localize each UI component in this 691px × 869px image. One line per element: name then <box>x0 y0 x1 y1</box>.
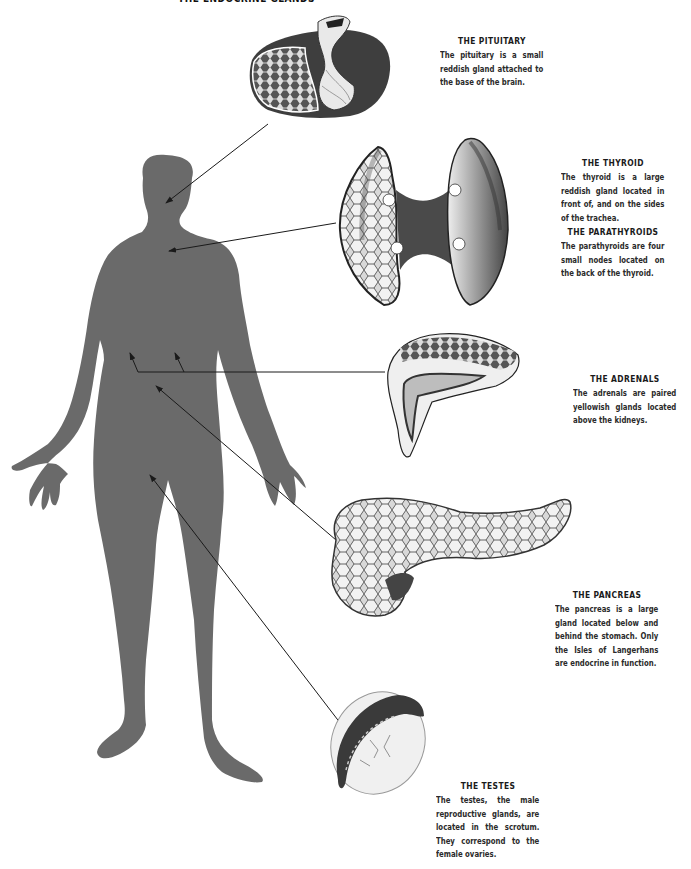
pituitary-label: THE PITUITARY The pituitary is a small r… <box>440 35 544 90</box>
pancreas-description: The pancreas is a large gland located be… <box>555 603 658 670</box>
testes-label: THE TESTES The testes, the male reproduc… <box>436 780 540 861</box>
pituitary-description: The pituitary is a small reddish gland a… <box>440 49 543 89</box>
pancreas-label: THE PANCREAS The pancreas is a large gla… <box>555 589 659 670</box>
parathyroids-description: The parathyroids are four small nodes lo… <box>561 240 664 280</box>
pituitary-heading: THE PITUITARY <box>440 35 544 48</box>
parathyroids-heading: THE PARATHYROIDS <box>561 226 665 239</box>
testes-heading: THE TESTES <box>436 780 540 793</box>
endocrine-diagram <box>0 0 691 869</box>
pituitary-illustration <box>250 16 390 118</box>
thyroid-illustration <box>340 138 508 305</box>
adrenal-illustration <box>388 334 519 457</box>
testis-illustration <box>314 676 441 809</box>
adrenals-description: The adrenals are paired yellowish glands… <box>573 387 676 427</box>
adrenals-heading: THE ADRENALS <box>573 373 677 386</box>
thyroid-label: THE THYROID The thyroid is a large reddi… <box>561 157 665 225</box>
parathyroids-label: THE PARATHYROIDS The parathyroids are fo… <box>561 226 665 281</box>
thyroid-description: The thyroid is a large reddish gland loc… <box>561 171 664 225</box>
testes-description: The testes, the male reproductive glands… <box>436 794 539 861</box>
thyroid-heading: THE THYROID <box>561 157 665 170</box>
pancreas-illustration <box>332 498 571 616</box>
pancreas-heading: THE PANCREAS <box>555 589 659 602</box>
human-silhouette <box>12 155 306 783</box>
testes-pointer <box>150 475 344 728</box>
adrenals-label: THE ADRENALS The adrenals are paired yel… <box>573 373 677 428</box>
